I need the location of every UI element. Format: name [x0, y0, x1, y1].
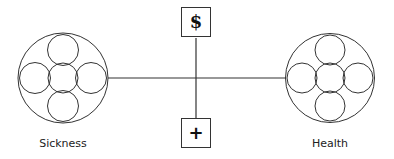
- dollar-icon: $: [190, 13, 203, 31]
- dollar-box: $: [181, 7, 211, 37]
- health-cluster-icon: [286, 34, 375, 123]
- health-label: Health: [285, 137, 375, 150]
- sickness-cluster-icon: [18, 33, 108, 123]
- sickness-label: Sickness: [18, 137, 108, 150]
- plus-icon: +: [188, 124, 203, 142]
- plus-box: +: [181, 118, 211, 148]
